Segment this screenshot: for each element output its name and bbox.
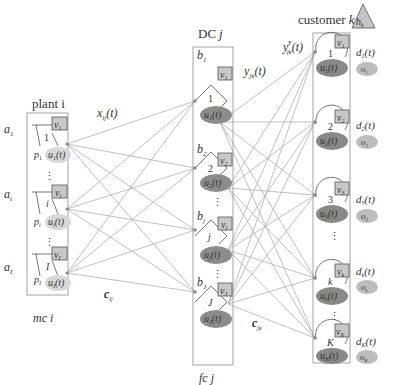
customer-input-port bbox=[314, 121, 317, 124]
dc-group: DCj fc j b1 v1 1 u1(t) b2 v2 2 u2(t) ⋮ bbox=[193, 26, 233, 385]
svg-text:I: I bbox=[45, 261, 50, 272]
dc-node-j: bj vj j uj(t) bbox=[194, 209, 233, 264]
customer-node-K: vK K uK(t) dK(t) oK bbox=[314, 319, 379, 364]
demand-d2: d2(t) bbox=[356, 119, 375, 132]
customer-input-port bbox=[314, 194, 317, 197]
flow-label-y-jk: yjk(t) bbox=[243, 64, 266, 80]
svg-text:1: 1 bbox=[328, 48, 333, 59]
capacity-label-a1: a1 bbox=[4, 122, 14, 138]
svg-text:k: k bbox=[328, 276, 333, 287]
customer-input-port bbox=[314, 337, 317, 340]
dc-input-port bbox=[194, 167, 197, 170]
plant-node-1: a1 v1 1 p1 u1(t) bbox=[4, 117, 71, 163]
customer-node-3: v3 3 u3(t) d3(t) o3 bbox=[314, 177, 379, 223]
dc-input-port bbox=[194, 100, 197, 103]
node-index: 1 bbox=[44, 132, 49, 143]
plant-group: plant i mc i a1 v1 1 p1 u1(t) ⋮ ai vi i … bbox=[4, 96, 71, 325]
dc-to-customer-edges bbox=[220, 52, 315, 338]
svg-text:K: K bbox=[326, 337, 335, 348]
dc-node-1: b1 v1 1 u1(t) bbox=[194, 48, 233, 124]
svg-text:bj: bj bbox=[197, 209, 205, 225]
dc-title: DCj bbox=[198, 26, 223, 41]
plant-node-I: aI vI I pI uI(t) bbox=[4, 247, 71, 291]
plant-title: plant i bbox=[32, 96, 65, 111]
param-p1: p1 bbox=[33, 149, 42, 161]
svg-text:pI: pI bbox=[33, 274, 42, 286]
cost-label-c-jk: cjk bbox=[252, 316, 262, 331]
svg-text:u1(t): u1(t) bbox=[204, 109, 222, 121]
demand-d3: d3(t) bbox=[356, 193, 375, 206]
svg-text:j: j bbox=[206, 231, 211, 242]
svg-text:ui(t): ui(t) bbox=[48, 216, 65, 228]
svg-text:uK(t): uK(t) bbox=[320, 350, 339, 362]
customer-ellipsis-top: ⋮ bbox=[329, 230, 340, 242]
demand-dK: dK(t) bbox=[356, 335, 376, 348]
plant-node-i: ai vi i pi ui(t) bbox=[4, 185, 71, 230]
plant-ellipsis-top: ⋮ bbox=[44, 170, 55, 182]
svg-text:pi: pi bbox=[33, 216, 41, 228]
customer-node-2: v2 2 u2(t) d2(t) o2 bbox=[314, 105, 379, 150]
svg-text:uI(t): uI(t) bbox=[48, 277, 65, 289]
svg-text:uj(t): uj(t) bbox=[204, 249, 221, 261]
svg-text:u2(t): u2(t) bbox=[320, 135, 338, 147]
customer-group: customerk hk v1 1 u1(t) d1(t) o1 v2 2 u2… bbox=[298, 4, 378, 364]
plant-footer-mc: mc i bbox=[33, 311, 53, 325]
plant-to-dc-edges bbox=[67, 101, 195, 292]
svg-text:uJ(t): uJ(t) bbox=[204, 313, 222, 325]
plant-output-port bbox=[65, 142, 68, 145]
svg-text:ai: ai bbox=[4, 187, 12, 203]
svg-text:u1(t): u1(t) bbox=[320, 62, 338, 74]
svg-text:uk(t): uk(t) bbox=[320, 290, 338, 302]
customer-node-k: vk k uk(t) dk(t) ok bbox=[314, 259, 379, 305]
svg-text:1: 1 bbox=[208, 93, 213, 104]
state-u1: u1(t) bbox=[48, 149, 66, 161]
svg-text:aI: aI bbox=[4, 260, 13, 276]
svg-text:b1: b1 bbox=[197, 48, 207, 64]
dc-footer-fc: fc j bbox=[199, 371, 215, 385]
supply-chain-network-diagram: plant i mc i a1 v1 1 p1 u1(t) ⋮ ai vi i … bbox=[0, 0, 395, 385]
svg-text:2: 2 bbox=[208, 163, 213, 174]
svg-text:2: 2 bbox=[328, 121, 333, 132]
plant-output-port bbox=[65, 207, 68, 210]
svg-text:3: 3 bbox=[328, 194, 333, 205]
svg-text:i: i bbox=[46, 198, 49, 209]
svg-text:J: J bbox=[208, 297, 213, 308]
dc-ellipsis-top: ⋮ bbox=[212, 196, 223, 208]
plant-output-port bbox=[65, 271, 68, 274]
dc-input-port bbox=[194, 229, 197, 232]
flow-label-yF-jk: yFjk(t) bbox=[282, 40, 303, 56]
svg-text:bJ: bJ bbox=[197, 275, 207, 291]
dc-node-J: bJ vJ J uJ(t) bbox=[194, 275, 233, 328]
dc-node-2: b2 v2 2 u2(t) bbox=[194, 142, 233, 192]
customer-ellipsis-bottom: ⋮ bbox=[329, 310, 340, 322]
customer-title: customerk bbox=[298, 12, 355, 27]
dc-ellipsis-bottom: ⋮ bbox=[212, 268, 223, 280]
dc-input-port bbox=[194, 291, 197, 294]
flow-label-x-ij: xij(t) bbox=[96, 106, 118, 122]
svg-text:u2(t): u2(t) bbox=[204, 177, 222, 189]
customer-node-1: v1 1 u1(t) d1(t) o1 bbox=[314, 32, 379, 77]
plant-ellipsis-bottom: ⋮ bbox=[44, 236, 55, 248]
customer-input-port bbox=[314, 277, 317, 280]
customer-input-port bbox=[314, 51, 317, 54]
demand-dk: dk(t) bbox=[356, 265, 375, 278]
svg-text:b2: b2 bbox=[197, 142, 207, 158]
svg-text:u3(t): u3(t) bbox=[320, 208, 338, 220]
demand-d1: d1(t) bbox=[356, 46, 375, 59]
cost-label-c-ij: cij bbox=[104, 287, 113, 302]
